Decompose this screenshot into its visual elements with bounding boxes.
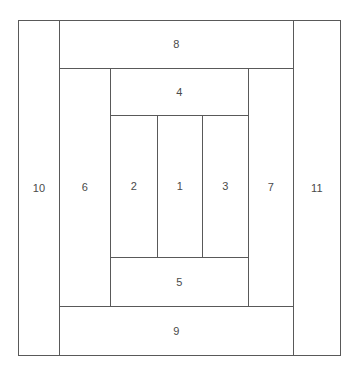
region-label-11: 11 [311,183,323,194]
region-5: 5 [110,257,249,307]
region-4: 4 [110,68,249,116]
region-label-9: 9 [173,326,179,337]
region-label-5: 5 [176,277,182,288]
region-label-4: 4 [176,87,182,98]
region-8: 8 [59,20,294,69]
region-11: 11 [293,20,341,356]
region-label-8: 8 [173,39,179,50]
region-label-2: 2 [131,181,137,192]
diagram-canvas: 10 11 8 9 6 7 4 5 2 1 3 [0,0,357,371]
region-6: 6 [59,68,111,307]
region-3: 3 [202,115,249,258]
region-1: 1 [157,115,203,258]
region-label-6: 6 [82,182,88,193]
region-7: 7 [248,68,294,307]
region-2: 2 [110,115,158,258]
region-10: 10 [18,20,60,356]
region-label-1: 1 [177,181,183,192]
region-label-10: 10 [33,183,46,194]
region-9: 9 [59,306,294,356]
region-label-7: 7 [268,182,274,193]
region-label-3: 3 [222,181,228,192]
